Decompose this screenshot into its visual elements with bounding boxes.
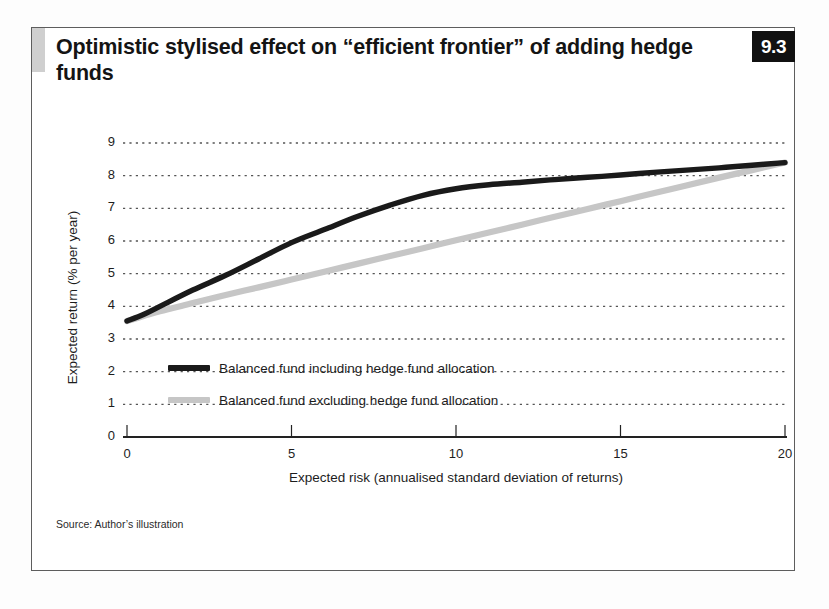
y-tick-label: 0: [89, 428, 115, 443]
y-tick-label: 4: [89, 297, 115, 312]
legend-swatch-including: [168, 365, 210, 371]
y-tick-label: 2: [89, 363, 115, 378]
source-note: Source: Author’s illustration: [56, 518, 183, 530]
y-tick-label: 8: [89, 167, 115, 182]
figure-number-badge: 9.3: [752, 31, 795, 62]
x-axis-title: Expected risk (annualised standard devia…: [127, 470, 785, 485]
x-tick-label: 15: [601, 446, 641, 461]
x-tick-label: 20: [765, 446, 805, 461]
y-axis-title: Expected return (% per year): [65, 168, 80, 428]
y-tick-label: 3: [89, 330, 115, 345]
legend-item-excluding[interactable]: Balanced fund excluding hedge fund alloc…: [168, 391, 498, 409]
y-tick-label: 9: [89, 134, 115, 149]
legend-swatch-excluding: [168, 397, 210, 403]
y-tick-label: 6: [89, 232, 115, 247]
y-tick-label: 1: [89, 395, 115, 410]
page-root: Optimistic stylised effect on “efficient…: [0, 0, 829, 609]
title-accent-bar: [32, 28, 45, 72]
x-tick-label: 5: [272, 446, 312, 461]
legend-label-excluding: Balanced fund excluding hedge fund alloc…: [219, 393, 498, 408]
legend-item-including[interactable]: Balanced fund including hedge fund alloc…: [168, 359, 494, 377]
legend-label-including: Balanced fund including hedge fund alloc…: [219, 361, 494, 376]
x-tick-label: 0: [107, 446, 147, 461]
y-tick-label: 7: [89, 199, 115, 214]
x-tick-label: 10: [436, 446, 476, 461]
figure-frame: [31, 27, 795, 571]
page-title: Optimistic stylised effect on “efficient…: [56, 34, 736, 86]
y-tick-label: 5: [89, 265, 115, 280]
